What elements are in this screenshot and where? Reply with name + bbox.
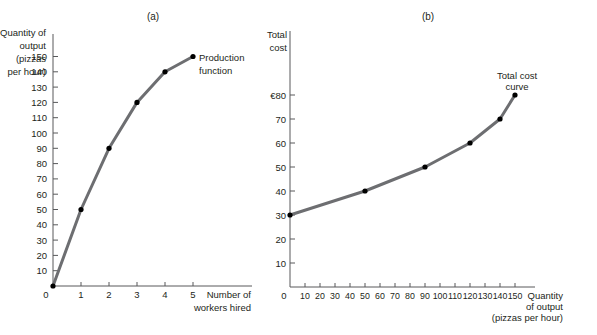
y-tick-label: 60: [275, 138, 286, 149]
y-tick-label: 90: [36, 143, 47, 154]
panel-a-x-axis-label: Number ofworkers hired: [193, 289, 251, 313]
x-tick-label: 70: [390, 291, 400, 301]
data-point: [50, 283, 55, 288]
y-tick-label: 70: [275, 114, 286, 125]
y-tick-label: 140: [31, 66, 47, 77]
chart-canvas: (a) Quantity ofoutput(pizzasper hour) 10…: [0, 0, 597, 335]
x-tick-label: 4: [162, 289, 167, 300]
data-point: [134, 100, 139, 105]
x-tick-label: 130: [478, 291, 493, 301]
data-point: [106, 146, 111, 151]
total-cost-chart: (b) Totalcost 10203040506070€80 10203040…: [267, 11, 563, 323]
y-tick-label: 10: [36, 265, 47, 276]
panel-b-origin-label: 0: [281, 290, 286, 301]
x-tick-label: 110: [448, 291, 462, 301]
x-tick-label: 90: [420, 291, 430, 301]
y-tick-label: 60: [36, 189, 47, 200]
production-function-points: [50, 54, 195, 289]
panel-a-x-ticks: 12345: [78, 282, 195, 300]
x-axis-label-line: Quantity: [528, 290, 564, 301]
x-tick-label: 150: [508, 291, 523, 301]
x-tick-label: 140: [493, 291, 508, 301]
data-point: [512, 92, 517, 97]
data-point: [422, 164, 427, 169]
annotation-line: Production: [199, 52, 244, 63]
panel-b-y-ticks: 10203040506070€80: [270, 90, 295, 269]
y-tick-label: 30: [275, 210, 286, 221]
annotation-line: function: [199, 65, 232, 76]
x-tick-label: 100: [433, 291, 448, 301]
x-tick-label: 60: [375, 291, 385, 301]
total-cost-curve-line: [290, 95, 515, 215]
x-tick-label: 30: [330, 291, 340, 301]
production-function-line: [53, 57, 193, 287]
y-tick-label: 120: [31, 97, 47, 108]
y-tick-label: 20: [36, 250, 47, 261]
y-axis-label-line: cost: [270, 42, 288, 53]
annotation-line: curve: [505, 81, 528, 92]
y-tick-label: 80: [36, 158, 47, 169]
production-function-annotation: Productionfunction: [199, 52, 244, 76]
data-point: [287, 212, 292, 217]
x-tick-label: 20: [315, 291, 325, 301]
x-tick-label: 1: [78, 289, 83, 300]
y-tick-label: 50: [36, 204, 47, 215]
y-tick-label: 130: [31, 82, 47, 93]
panel-b-x-ticks: 102030405060708090100110120130140150: [300, 283, 522, 301]
data-point: [497, 116, 502, 121]
y-axis-label-line: output: [20, 40, 47, 51]
y-axis-label-line: Total: [267, 29, 287, 40]
x-tick-label: 80: [405, 291, 415, 301]
x-tick-label: 2: [106, 289, 111, 300]
x-tick-label: 10: [300, 291, 310, 301]
y-tick-label: 40: [275, 186, 286, 197]
data-point: [362, 188, 367, 193]
y-tick-label: €80: [270, 90, 286, 101]
total-cost-curve-points: [287, 92, 517, 217]
data-point: [190, 54, 195, 59]
y-tick-label: 40: [36, 219, 47, 230]
panel-b-y-axis-label: Totalcost: [267, 29, 287, 53]
data-point: [162, 69, 167, 74]
y-tick-label: 50: [275, 162, 286, 173]
data-point: [467, 140, 472, 145]
y-tick-label: 20: [275, 234, 286, 245]
production-function-chart: (a) Quantity ofoutput(pizzasper hour) 10…: [0, 11, 252, 313]
panel-a-y-ticks: 102030405060708090100110120130140150: [31, 51, 58, 276]
y-tick-label: 30: [36, 235, 47, 246]
x-axis-label-line: (pizzas per hour): [492, 312, 563, 323]
x-tick-label: 3: [134, 289, 139, 300]
panel-b-label: (b): [422, 11, 434, 22]
x-tick-label: 50: [360, 291, 370, 301]
x-tick-label: 40: [345, 291, 355, 301]
panel-a-label: (a): [147, 11, 159, 22]
y-tick-label: 110: [32, 112, 47, 123]
x-tick-label: 5: [190, 289, 195, 300]
y-tick-label: 100: [31, 128, 47, 139]
y-tick-label: 10: [275, 258, 286, 269]
y-axis-label-line: Quantity of: [0, 27, 46, 38]
y-tick-label: 150: [31, 51, 47, 62]
panel-a-origin-label: 0: [43, 289, 48, 300]
x-axis-label-line: of output: [526, 301, 563, 312]
data-point: [78, 207, 83, 212]
x-axis-label-line: workers hired: [193, 302, 251, 313]
x-tick-label: 120: [463, 291, 478, 301]
y-tick-label: 70: [36, 173, 47, 184]
x-axis-label-line: Number of: [207, 289, 252, 300]
annotation-line: Total cost: [497, 70, 537, 81]
total-cost-curve-annotation: Total costcurve: [497, 70, 537, 92]
